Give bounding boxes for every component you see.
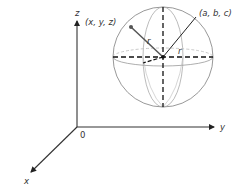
axes bbox=[31, 21, 214, 172]
sphere bbox=[113, 7, 213, 107]
x-axis bbox=[31, 127, 77, 172]
x-axis-label: x bbox=[23, 176, 30, 186]
radius-label-2: r bbox=[178, 46, 182, 56]
surface-point bbox=[129, 25, 133, 29]
center-point bbox=[161, 55, 165, 59]
diagram-canvas: z y x 0 (x, y, z) (a, b, c) r r bbox=[0, 0, 240, 191]
z-axis-label: z bbox=[74, 8, 80, 18]
depth-diameter bbox=[143, 57, 163, 63]
y-axis-label: y bbox=[219, 122, 226, 132]
center-point-label: (a, b, c) bbox=[199, 8, 232, 18]
radius-label-1: r bbox=[147, 36, 151, 46]
origin-label: 0 bbox=[80, 130, 85, 140]
surface-point-label: (x, y, z) bbox=[85, 17, 116, 27]
